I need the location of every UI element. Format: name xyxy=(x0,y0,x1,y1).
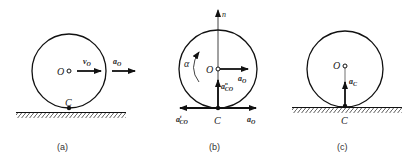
contact-label: C xyxy=(341,115,348,126)
center-label: O xyxy=(333,60,340,71)
tangential-accel-label: atCO xyxy=(176,114,188,125)
contact-label: C xyxy=(214,115,221,126)
center-label: O xyxy=(206,64,213,75)
center-accel-label: aO xyxy=(238,74,247,84)
acceleration-label: aO xyxy=(113,57,122,67)
ground-hatch xyxy=(292,108,402,113)
velocity-label: vO xyxy=(83,57,92,67)
angular-accel-arc xyxy=(194,52,200,82)
contact-accel-label: aO xyxy=(247,115,256,125)
center-point xyxy=(67,69,71,73)
contact-accel-label: aC xyxy=(349,77,358,87)
center-point xyxy=(216,67,220,71)
alpha-label: α xyxy=(184,58,190,69)
axis-label: n xyxy=(222,10,226,19)
caption-a: (a) xyxy=(57,142,68,152)
figure-a: O C vO aO (a) xyxy=(16,34,135,152)
center-point xyxy=(343,64,347,68)
figure-c: O C aC (c) xyxy=(292,31,402,152)
caption-b: (b) xyxy=(209,142,220,152)
contact-label: C xyxy=(65,97,72,108)
normal-accel-label: anCO xyxy=(221,81,234,92)
caption-c: (c) xyxy=(337,142,348,152)
rolling-disk-diagrams: O C vO aO (a) n α O C aO anCO atCO aO (b… xyxy=(0,0,416,163)
ground-hatch xyxy=(16,113,126,118)
center-label: O xyxy=(57,66,64,77)
figure-b: n α O C aO anCO atCO aO (b) xyxy=(176,10,257,152)
